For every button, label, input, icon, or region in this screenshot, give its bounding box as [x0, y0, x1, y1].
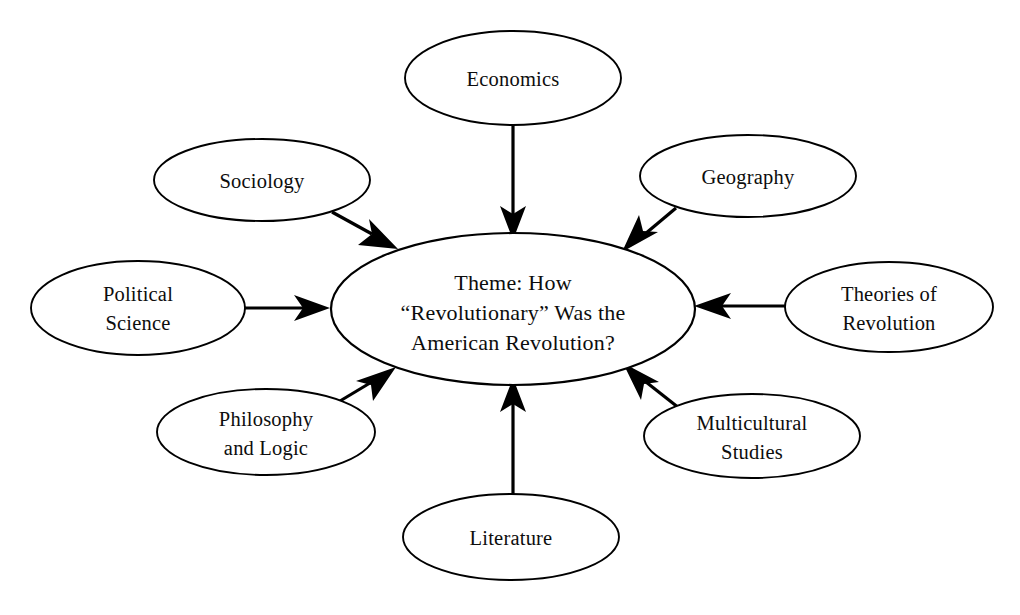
node-geography[interactable]: Geography [640, 135, 856, 217]
center-label-line-2: “Revolutionary” Was the [401, 300, 626, 325]
node-sociology[interactable]: Sociology [154, 139, 370, 221]
arrow-theories-of-revolution-to-center [694, 293, 786, 319]
philosophy-and-logic-ellipse-shape [157, 389, 375, 475]
economics-label: Economics [467, 68, 560, 90]
theories-of-revolution-ellipse-shape [785, 262, 993, 352]
theories-of-revolution-label-line-1: Theories of [841, 283, 937, 305]
philosophy-and-logic-label-line-2: and Logic [224, 437, 308, 460]
sociology-label: Sociology [220, 170, 305, 193]
node-political-science[interactable]: Political Science [31, 261, 245, 355]
arrow-sociology-to-center [332, 212, 398, 249]
concept-map-canvas: Theme: How “Revolutionary” Was the Ameri… [0, 0, 1020, 615]
arrow-political-science-to-center [245, 295, 330, 321]
political-science-label-line-1: Political [103, 283, 173, 305]
arrowhead-down-right [358, 219, 398, 249]
multicultural-studies-ellipse-shape [644, 394, 860, 478]
node-center-theme[interactable]: Theme: How “Revolutionary” Was the Ameri… [331, 233, 695, 385]
arrowhead-down-left [622, 215, 658, 252]
arrow-literature-to-center [500, 378, 526, 494]
node-literature[interactable]: Literature [403, 494, 619, 580]
center-label-line-1: Theme: How [454, 270, 571, 295]
arrow-economics-to-center [500, 125, 526, 240]
concept-map-diagram: Theme: How “Revolutionary” Was the Ameri… [0, 0, 1020, 615]
literature-label: Literature [470, 527, 553, 549]
node-economics[interactable]: Economics [405, 31, 621, 125]
philosophy-and-logic-label-line-1: Philosophy [219, 408, 314, 431]
arrow-geography-to-center [622, 208, 676, 252]
node-theories-of-revolution[interactable]: Theories of Revolution [785, 262, 993, 352]
node-multicultural-studies[interactable]: Multicultural Studies [644, 394, 860, 478]
geography-label: Geography [702, 166, 795, 189]
multicultural-studies-label-line-1: Multicultural [697, 412, 808, 434]
political-science-label-line-2: Science [105, 312, 170, 334]
arrowhead-up-right [356, 367, 396, 401]
multicultural-studies-label-line-2: Studies [721, 441, 783, 463]
node-philosophy-and-logic[interactable]: Philosophy and Logic [157, 389, 375, 475]
arrow-multicultural-studies-to-center [623, 363, 679, 408]
center-label-line-3: American Revolution? [411, 330, 615, 355]
political-science-ellipse-shape [31, 261, 245, 355]
theories-of-revolution-label-line-2: Revolution [842, 312, 935, 334]
